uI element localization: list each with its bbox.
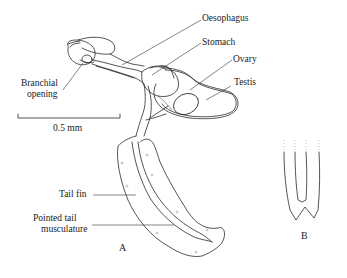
label-branchial-line1: Branchial [21,78,58,89]
label-ovary: Ovary [233,54,257,65]
label-pointed-line2: musculature [41,224,87,235]
oesophagus-outline [92,54,144,84]
stalk-outline [136,84,168,136]
panel-b-drawing [284,140,320,220]
gonad-outline [154,68,238,119]
label-branchial-line2: opening [27,89,58,100]
panel-label-a: A [119,242,126,253]
label-pointed-line1: Pointed tail [33,213,77,224]
label-tail-fin: Tail fin [59,189,87,200]
scale-bar-label: 0.5 mm [53,123,82,134]
head-outline [67,37,114,65]
diagram-drawing [0,0,347,278]
panel-label-b: B [301,230,308,241]
label-stomach: Stomach [202,37,235,48]
scale-bar [18,114,120,118]
tail-outline [117,136,224,257]
label-testis: Testis [234,77,256,88]
anatomical-diagram: Oesophagus Stomach Ovary Testis Branchia… [0,0,347,278]
label-oesophagus: Oesophagus [202,13,248,24]
